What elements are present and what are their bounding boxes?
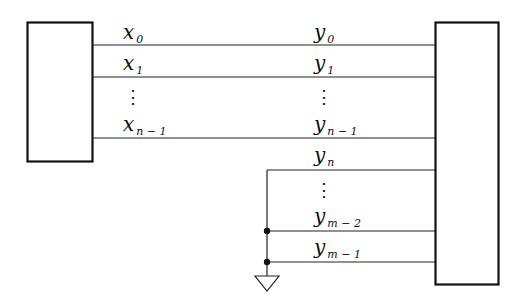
label-x1: x1	[123, 51, 143, 77]
label-yn: yn	[313, 143, 334, 169]
label-yn-1: yn − 1	[313, 112, 358, 138]
label-x-ellipsis: ⋮	[124, 86, 142, 107]
label-ym-2: ym − 2	[313, 204, 361, 230]
diagram-canvas: x0 x1 ⋮ xn − 1 y0 y1 ⋮ yn − 1 yn ⋮ ym − …	[0, 0, 528, 306]
label-y1: y1	[313, 51, 334, 77]
label-x0: x0	[123, 20, 143, 46]
label-y0: y0	[313, 20, 334, 46]
label-ym-1: ym − 1	[313, 235, 361, 261]
label-xn-1: xn − 1	[123, 112, 167, 138]
ground-icon	[255, 276, 279, 291]
label-y-ellipsis-1: ⋮	[315, 86, 333, 107]
left-block	[28, 23, 93, 162]
junction-dot-m-1	[264, 259, 270, 265]
junction-dot-m-2	[264, 228, 270, 234]
label-y-ellipsis-2: ⋮	[315, 179, 333, 200]
right-block	[436, 23, 499, 285]
